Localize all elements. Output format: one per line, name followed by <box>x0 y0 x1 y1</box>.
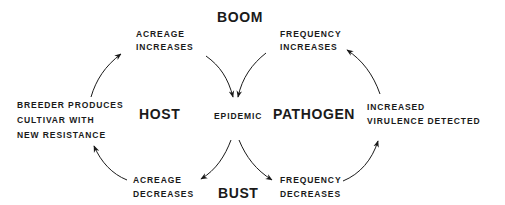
node-line: NEW RESISTANCE <box>17 128 124 143</box>
arrow-acreage-decreases-to-breeder <box>94 146 127 180</box>
epidemic-node: EPIDEMIC <box>214 110 262 123</box>
node-line: DECREASES <box>133 187 194 201</box>
node-line: ACREAGE <box>136 28 194 41</box>
arrow-acreage-increases-to-epidemic <box>206 56 233 97</box>
node-line: CULTIVAR WITH <box>17 113 124 128</box>
virulence-node: INCREASED VIRULENCE DETECTED <box>367 100 481 128</box>
arrow-virulence-to-frequency-increases <box>347 50 380 94</box>
node-line: FREQUENCY <box>280 28 341 41</box>
frequency-decreases-node: FREQUENCY DECREASES <box>280 173 341 201</box>
bust-label: BUST <box>218 185 259 201</box>
node-line: VIRULENCE DETECTED <box>367 114 481 128</box>
node-line: ACREAGE <box>133 173 194 187</box>
node-line: INCREASED <box>367 100 481 114</box>
arrow-breeder-to-acreage-increases <box>91 54 121 97</box>
acreage-increases-node: ACREAGE INCREASES <box>136 28 194 54</box>
pathogen-label: PATHOGEN <box>273 106 355 122</box>
arrow-frequency-decreases-to-virulence <box>343 141 378 181</box>
node-line: INCREASES <box>136 41 194 54</box>
node-line: DECREASES <box>280 187 341 201</box>
boom-label: BOOM <box>217 9 263 25</box>
node-line: INCREASES <box>280 41 341 54</box>
arrow-epidemic-to-acreage-decreases <box>201 140 231 179</box>
arrow-frequency-increases-to-epidemic <box>238 53 266 97</box>
node-line: BREEDER PRODUCES <box>17 98 124 113</box>
arrow-epidemic-to-frequency-decreases <box>239 140 272 180</box>
boom-bust-diagram: BOOM ACREAGE INCREASES FREQUENCY INCREAS… <box>0 0 505 205</box>
frequency-increases-node: FREQUENCY INCREASES <box>280 28 341 54</box>
host-label: HOST <box>139 106 180 122</box>
node-line: FREQUENCY <box>280 173 341 187</box>
acreage-decreases-node: ACREAGE DECREASES <box>133 173 194 201</box>
breeder-node: BREEDER PRODUCES CULTIVAR WITH NEW RESIS… <box>17 98 124 143</box>
